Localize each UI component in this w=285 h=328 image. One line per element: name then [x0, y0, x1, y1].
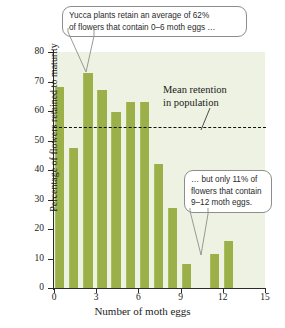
callout-bottom-line-1: … but only 11% of: [191, 174, 265, 186]
bar: [182, 264, 191, 288]
mean-retention-label: Mean retention in population: [163, 84, 227, 110]
bar: [154, 164, 163, 288]
callout-bottom: … but only 11% of flowers that contain 9…: [184, 170, 272, 213]
y-tick-label: 40: [26, 164, 44, 174]
y-tick-label: 80: [26, 46, 44, 56]
y-tick-label: 50: [26, 135, 44, 145]
callout-bottom-leader: [186, 208, 226, 260]
callout-top-leader: [60, 28, 130, 76]
y-tick: [48, 229, 54, 230]
mean-label-line-1: Mean retention: [163, 84, 227, 97]
bar: [140, 102, 149, 288]
x-axis-line: [53, 288, 266, 289]
mean-label-leader: [196, 108, 220, 132]
bar: [111, 112, 120, 288]
y-tick-label: 10: [26, 253, 44, 263]
callout-top-line-1: Yucca plants retain an average of 62%: [69, 10, 240, 22]
y-axis-title: Percentage of flowers retained to maturi…: [48, 28, 59, 228]
bar: [69, 148, 78, 288]
chart-figure: 01020304050607080 03691215 Mean retentio…: [0, 0, 285, 328]
bar: [97, 90, 106, 288]
bar: [126, 102, 135, 288]
callout-bottom-line-2: flowers that contain: [191, 186, 265, 198]
y-tick-label: 0: [26, 282, 44, 292]
x-axis-title: Number of moth eggs: [0, 305, 285, 317]
x-tick-label: 9: [171, 292, 191, 302]
x-tick-label: 12: [213, 292, 233, 302]
y-tick-label: 30: [26, 194, 44, 204]
bar: [83, 73, 92, 288]
x-tick-label: 6: [128, 292, 148, 302]
y-tick: [48, 259, 54, 260]
x-tick-label: 15: [255, 292, 275, 302]
bar: [168, 208, 177, 288]
x-tick-label: 0: [44, 292, 64, 302]
mean-retention-line: [54, 127, 266, 128]
x-tick-label: 3: [86, 292, 106, 302]
y-tick-label: 70: [26, 76, 44, 86]
y-tick-label: 60: [26, 105, 44, 115]
y-tick-label: 20: [26, 223, 44, 233]
